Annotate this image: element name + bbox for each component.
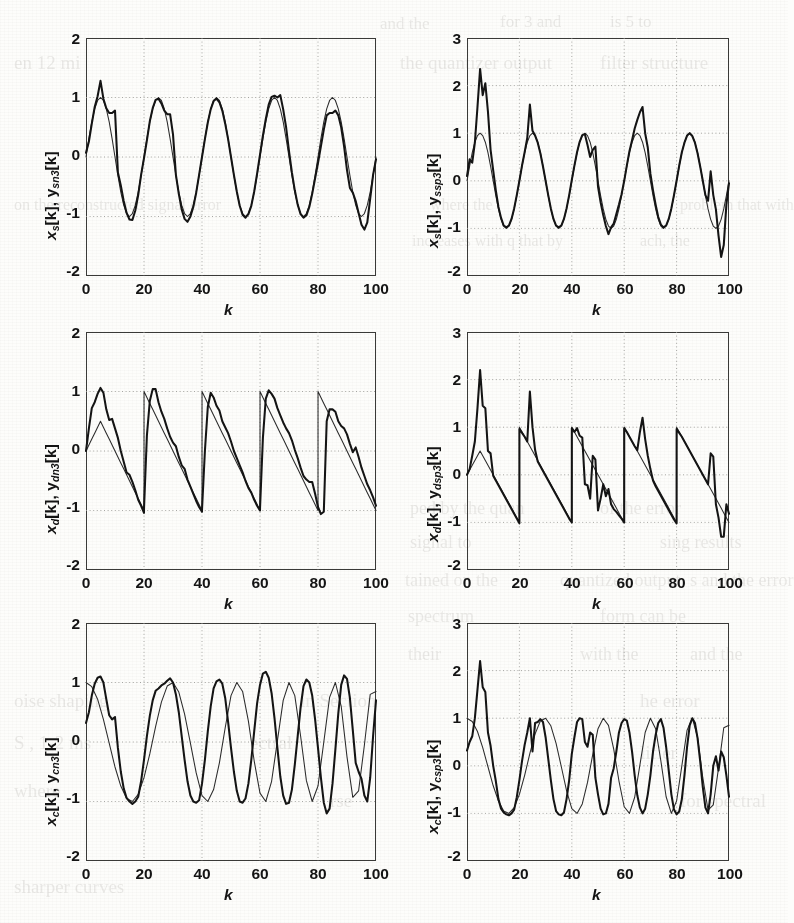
- y-tick-cn3-1: -1: [50, 789, 80, 807]
- x-tick-sn3-4: 80: [302, 280, 334, 298]
- x-tick-cn3-5: 100: [358, 865, 394, 883]
- x-tick-csp3-0: 0: [451, 865, 483, 883]
- y-tick-dsp3-2: 0: [437, 465, 461, 483]
- x-tick-csp3-5: 100: [712, 865, 748, 883]
- x-tick-dn3-1: 20: [128, 574, 160, 592]
- gridlines-ssp3: [467, 38, 729, 276]
- y-axis-label-sn3: xs[k], ysn3[k]: [42, 151, 61, 240]
- x-tick-sn3-5: 100: [358, 280, 394, 298]
- y-tick-csp3-1: -1: [431, 803, 461, 821]
- y-tick-cn3-3: 1: [56, 673, 80, 691]
- x-tick-cn3-4: 80: [302, 865, 334, 883]
- plot-area-dsp3: [467, 332, 729, 570]
- plot-area-dn3: [86, 332, 376, 570]
- x-tick-ssp3-5: 100: [712, 280, 748, 298]
- y-tick-cn3-2: 0: [56, 731, 80, 749]
- series-ycn3-quantized: [86, 672, 376, 814]
- x-tick-sn3-0: 0: [70, 280, 102, 298]
- series-ysn3-quantized: [86, 81, 376, 230]
- x-axis-label-dsp3: k: [592, 595, 601, 613]
- y-tick-ssp3-0: -2: [431, 262, 461, 280]
- x-axis-label-csp3: k: [592, 886, 601, 904]
- x-tick-sn3-3: 60: [244, 280, 276, 298]
- x-tick-dn3-2: 40: [186, 574, 218, 592]
- series-ycsp3-spike: [467, 661, 729, 815]
- x-tick-dsp3-2: 40: [556, 574, 588, 592]
- y-tick-csp3-2: 0: [437, 756, 461, 774]
- y-tick-csp3-4: 2: [437, 662, 461, 680]
- x-tick-csp3-2: 40: [556, 865, 588, 883]
- x-tick-ssp3-2: 40: [556, 280, 588, 298]
- x-tick-csp3-4: 80: [661, 865, 693, 883]
- series-ydsp3-spike: [467, 370, 729, 537]
- x-tick-dn3-4: 80: [302, 574, 334, 592]
- x-tick-cn3-3: 60: [244, 865, 276, 883]
- x-tick-csp3-1: 20: [504, 865, 536, 883]
- x-tick-dsp3-5: 100: [712, 574, 748, 592]
- x-tick-cn3-2: 40: [186, 865, 218, 883]
- x-tick-dsp3-1: 20: [504, 574, 536, 592]
- y-tick-cn3-0: -2: [50, 847, 80, 865]
- y-tick-cn3-4: 2: [56, 615, 80, 633]
- y-tick-sn3-0: -2: [50, 262, 80, 280]
- x-axis-label-ssp3: k: [592, 301, 601, 319]
- y-tick-dsp3-5: 3: [437, 324, 461, 342]
- x-tick-sn3-1: 20: [128, 280, 160, 298]
- y-tick-ssp3-4: 2: [437, 77, 461, 95]
- y-tick-csp3-5: 3: [437, 615, 461, 633]
- gridlines-csp3: [467, 623, 729, 861]
- y-tick-dn3-3: 1: [56, 382, 80, 400]
- y-tick-ssp3-2: 0: [437, 171, 461, 189]
- x-tick-ssp3-3: 60: [609, 280, 641, 298]
- x-tick-dsp3-0: 0: [451, 574, 483, 592]
- x-axis-label-sn3: k: [224, 301, 233, 319]
- x-tick-sn3-2: 40: [186, 280, 218, 298]
- y-tick-dn3-4: 2: [56, 324, 80, 342]
- y-axis-label-cn3: xc[k], ycn3[k]: [42, 737, 61, 826]
- x-tick-cn3-1: 20: [128, 865, 160, 883]
- y-tick-dn3-1: -1: [50, 498, 80, 516]
- x-tick-dn3-3: 60: [244, 574, 276, 592]
- x-tick-dsp3-4: 80: [661, 574, 693, 592]
- plot-area-cn3: [86, 623, 376, 861]
- plot-area-ssp3: [467, 38, 729, 276]
- x-tick-ssp3-0: 0: [451, 280, 483, 298]
- y-tick-sn3-1: -1: [50, 204, 80, 222]
- x-tick-dn3-5: 100: [358, 574, 394, 592]
- y-tick-dsp3-0: -2: [431, 556, 461, 574]
- plot-area-csp3: [467, 623, 729, 861]
- y-tick-ssp3-5: 3: [437, 30, 461, 48]
- x-axis-label-dn3: k: [224, 595, 233, 613]
- y-tick-csp3-3: 1: [437, 709, 461, 727]
- x-tick-ssp3-1: 20: [504, 280, 536, 298]
- x-tick-dsp3-3: 60: [609, 574, 641, 592]
- x-tick-cn3-0: 0: [70, 865, 102, 883]
- y-tick-dsp3-4: 2: [437, 371, 461, 389]
- y-tick-ssp3-1: -1: [431, 218, 461, 236]
- plot-area-sn3: [86, 38, 376, 276]
- y-tick-ssp3-3: 1: [437, 124, 461, 142]
- y-tick-dn3-0: -2: [50, 556, 80, 574]
- y-tick-dn3-2: 0: [56, 440, 80, 458]
- y-tick-csp3-0: -2: [431, 847, 461, 865]
- x-axis-label-cn3: k: [224, 886, 233, 904]
- y-tick-dsp3-3: 1: [437, 418, 461, 436]
- y-tick-sn3-3: 1: [56, 88, 80, 106]
- x-tick-ssp3-4: 80: [661, 280, 693, 298]
- x-tick-csp3-3: 60: [609, 865, 641, 883]
- y-tick-dsp3-1: -1: [431, 512, 461, 530]
- y-tick-sn3-4: 2: [56, 30, 80, 48]
- y-tick-sn3-2: 0: [56, 146, 80, 164]
- x-tick-dn3-0: 0: [70, 574, 102, 592]
